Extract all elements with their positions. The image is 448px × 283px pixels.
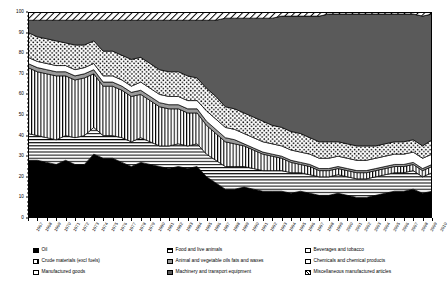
x-tick-mark	[66, 218, 67, 221]
x-tick-mark	[282, 218, 283, 221]
legend-swatch-beverages-tobacco	[305, 248, 311, 254]
x-tick-mark	[113, 218, 114, 221]
y-tick-label: 100	[16, 10, 24, 15]
legend-item: Machinery and transport equipment	[167, 267, 264, 278]
x-tick-label: 2010	[439, 222, 448, 232]
plot-area	[28, 12, 432, 218]
legend-swatch-manufactured-goods	[33, 270, 39, 276]
x-tick-mark	[188, 218, 189, 221]
y-tick-label: 30	[19, 154, 24, 159]
x-tick-label: 1985	[204, 222, 213, 232]
x-tick-mark	[37, 218, 38, 221]
x-tick-label: 2002	[364, 222, 373, 232]
x-tick-label: 1980	[157, 222, 166, 232]
x-tick-label: 1997	[317, 222, 326, 232]
chart-legend: Oil Crude materials (excl fuels) Manufac…	[30, 245, 430, 279]
y-tick-label: 80	[19, 51, 24, 56]
x-tick-label: 1984	[195, 222, 204, 232]
legend-swatch-chemicals	[305, 259, 311, 265]
x-tick-label: 1986	[214, 222, 223, 232]
legend-label: Food and live animals	[176, 248, 223, 253]
x-tick-label: 1992	[270, 222, 279, 232]
x-tick-label: 2008	[420, 222, 429, 232]
x-tick-label: 2007	[411, 222, 420, 232]
x-tick-mark	[385, 218, 386, 221]
x-tick-label: 1969	[54, 222, 63, 232]
x-tick-mark	[366, 218, 367, 221]
x-tick-mark	[310, 218, 311, 221]
legend-label: Chemicals and chemical products	[314, 259, 386, 264]
x-tick-mark	[75, 218, 76, 221]
legend-swatch-food-live-animals	[167, 248, 173, 254]
x-tick-label: 2001	[355, 222, 364, 232]
x-tick-label: 1981	[167, 222, 176, 232]
x-tick-mark	[272, 218, 273, 221]
y-tick-label: 10	[19, 195, 24, 200]
x-tick-label: 1991	[261, 222, 270, 232]
x-tick-label: 1999	[336, 222, 345, 232]
x-tick-label: 1967	[35, 222, 44, 232]
y-axis-title-host: Percent	[9, 12, 10, 218]
x-tick-label: 2005	[392, 222, 401, 232]
legend-swatch-machinery-transport	[167, 270, 173, 276]
x-tick-label: 1972	[82, 222, 91, 232]
y-tick-label: 70	[19, 72, 24, 77]
legend-column-2: Food and live animals Animal and vegetab…	[167, 245, 264, 278]
x-tick-mark	[178, 218, 179, 221]
legend-item: Chemicals and chemical products	[305, 256, 391, 267]
plot-frame	[28, 12, 432, 218]
y-axis: 0102030405060708090100	[0, 12, 28, 218]
x-tick-label: 1982	[176, 222, 185, 232]
legend-item: Animal and vegetable oils fats and waxes	[167, 256, 264, 267]
x-tick-label: 1988	[233, 222, 242, 232]
x-tick-mark	[28, 218, 29, 221]
x-tick-mark	[141, 218, 142, 221]
x-tick-label: 1995	[298, 222, 307, 232]
x-tick-mark	[225, 218, 226, 221]
legend-label: Beverages and tobacco	[314, 248, 364, 253]
x-tick-label: 1975	[110, 222, 119, 232]
legend-label: Machinery and transport equipment	[176, 270, 251, 275]
legend-label: Miscellaneous manufactured articles	[314, 270, 392, 275]
x-tick-mark	[244, 218, 245, 221]
x-tick-mark	[122, 218, 123, 221]
x-tick-mark	[160, 218, 161, 221]
x-tick-label: 1996	[308, 222, 317, 232]
legend-label: Animal and vegetable oils fats and waxes	[176, 259, 264, 264]
x-tick-mark	[169, 218, 170, 221]
x-tick-mark	[291, 218, 292, 221]
legend-column-1: Oil Crude materials (excl fuels) Manufac…	[33, 245, 100, 278]
x-tick-mark	[150, 218, 151, 221]
x-tick-mark	[84, 218, 85, 221]
legend-item: Food and live animals	[167, 245, 264, 256]
x-tick-label: 2000	[345, 222, 354, 232]
x-tick-label: 1987	[223, 222, 232, 232]
x-tick-mark	[216, 218, 217, 221]
x-tick-label: 1983	[186, 222, 195, 232]
x-tick-mark	[253, 218, 254, 221]
x-tick-mark	[394, 218, 395, 221]
x-tick-mark	[131, 218, 132, 221]
x-tick-label: 1989	[242, 222, 251, 232]
legend-label: Crude materials (excl fuels)	[42, 259, 100, 264]
legend-swatch-oil	[33, 248, 39, 254]
x-tick-label: 2003	[374, 222, 383, 232]
legend-item: Crude materials (excl fuels)	[33, 256, 100, 267]
legend-item: Oil	[33, 245, 100, 256]
x-tick-label: 1978	[139, 222, 148, 232]
x-tick-label: 2006	[402, 222, 411, 232]
legend-item: Miscellaneous manufactured articles	[305, 267, 391, 278]
legend-label: Oil	[42, 248, 48, 253]
x-tick-mark	[300, 218, 301, 221]
legend-swatch-crude-materials	[33, 259, 39, 265]
x-tick-label: 1970	[63, 222, 72, 232]
x-tick-mark	[338, 218, 339, 221]
y-tick-label: 0	[21, 216, 24, 221]
y-tick-label: 40	[19, 133, 24, 138]
x-tick-mark	[357, 218, 358, 221]
y-tick-label: 60	[19, 92, 24, 97]
x-tick-label: 1990	[251, 222, 260, 232]
x-tick-label: 1977	[129, 222, 138, 232]
x-tick-mark	[47, 218, 48, 221]
